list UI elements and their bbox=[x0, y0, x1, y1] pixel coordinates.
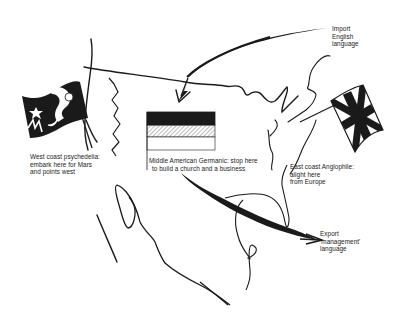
middle-american-label-line: to build a church and a business bbox=[149, 165, 258, 173]
export-label: Export 'management' language bbox=[320, 230, 360, 253]
west-coast-label-line: and points west bbox=[30, 168, 100, 176]
mexico-coast bbox=[129, 197, 230, 305]
middle-american-label: Middle American Germanic: stop here to b… bbox=[149, 157, 258, 172]
export-label-line: language bbox=[320, 245, 360, 253]
import-label-line: Import bbox=[332, 25, 359, 33]
export-label-line: Export bbox=[320, 230, 360, 238]
import-label-line: language bbox=[332, 40, 359, 48]
middle-american-label-line: Middle American Germanic: stop here bbox=[149, 157, 258, 165]
east-coast-outline bbox=[268, 56, 330, 174]
east-coast-label-line: from Europe bbox=[290, 178, 354, 186]
import-label: Import English language bbox=[332, 25, 359, 48]
import-arrow bbox=[176, 28, 327, 102]
east-coast-label-line: East coast Anglophile: bbox=[290, 163, 354, 171]
baja-california bbox=[116, 185, 136, 228]
west-coast-label-line: embark here for Mars bbox=[30, 161, 100, 169]
east-coast-label-line: alight here bbox=[290, 171, 354, 179]
east-coast-label: East coast Anglophile: alight here from … bbox=[290, 163, 354, 186]
rocky-mountains bbox=[109, 78, 120, 156]
psychedelic-flag bbox=[22, 81, 92, 148]
west-coast-label: West coast psychedelia: embark here for … bbox=[30, 153, 100, 176]
import-label-line: English bbox=[332, 33, 359, 41]
union-jack-flag bbox=[300, 85, 383, 152]
west-coast-label-line: West coast psychedelia: bbox=[30, 153, 100, 161]
export-label-line: 'management' bbox=[320, 238, 360, 246]
